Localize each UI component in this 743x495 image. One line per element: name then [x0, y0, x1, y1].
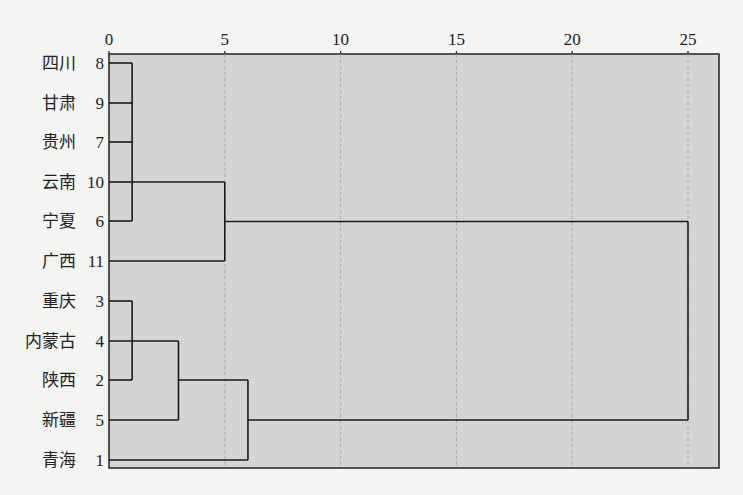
x-tick-label: 15 — [448, 30, 465, 49]
leaf-name: 宁夏 — [42, 211, 76, 231]
leaf-name: 贵州 — [42, 132, 76, 152]
leaf-id: 5 — [96, 411, 105, 430]
leaf-id: 6 — [96, 212, 105, 231]
dendrogram-chart: 0510152025 四川8甘肃9贵州7云南10宁夏6广西11重庆3内蒙古4陕西… — [0, 0, 743, 495]
leaf-name: 新疆 — [42, 410, 76, 430]
x-axis-ticks: 0510152025 — [105, 30, 697, 54]
leaf-name: 四川 — [42, 53, 76, 73]
leaf-id: 10 — [87, 173, 104, 192]
leaf-id: 2 — [96, 371, 105, 390]
leaf-id: 7 — [96, 133, 105, 152]
x-tick-label: 0 — [105, 30, 114, 49]
leaf-id: 11 — [88, 252, 104, 271]
leaf-id: 9 — [96, 94, 105, 113]
leaf-id: 3 — [96, 292, 105, 311]
x-tick-label: 20 — [564, 30, 581, 49]
x-tick-label: 25 — [680, 30, 697, 49]
leaf-id: 8 — [96, 54, 105, 73]
leaf-name: 广西 — [42, 251, 76, 271]
leaf-name: 云南 — [42, 172, 76, 192]
x-tick-label: 10 — [332, 30, 349, 49]
leaf-name: 重庆 — [42, 291, 76, 311]
leaf-name: 陕西 — [42, 370, 76, 390]
leaf-id: 4 — [96, 332, 105, 351]
leaf-id: 1 — [96, 451, 105, 470]
leaf-name: 甘肃 — [42, 93, 76, 113]
leaf-name: 内蒙古 — [25, 331, 76, 351]
leaf-name: 青海 — [42, 450, 76, 470]
leaf-labels: 四川8甘肃9贵州7云南10宁夏6广西11重庆3内蒙古4陕西2新疆5青海1 — [25, 53, 105, 470]
x-tick-label: 5 — [221, 30, 230, 49]
